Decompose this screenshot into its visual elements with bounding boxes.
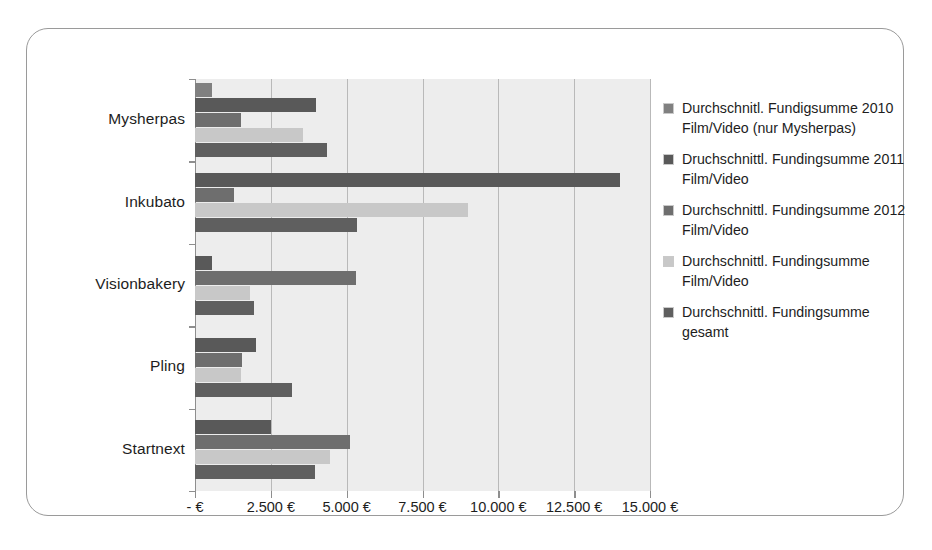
bar [195,113,241,127]
legend-item[interactable]: Durchschnitl. Fundigsumme 2010 Film/Vide… [663,99,915,138]
legend-item[interactable]: Durchschnittl. Fundingsumme 2012 Film/Vi… [663,201,915,240]
x-axis-tick-label: 7.500 € [383,499,463,515]
legend-label: Druchschnittl. Fundingsumme 2011 Film/Vi… [682,151,904,187]
bar [195,368,241,382]
category-label-pling: Pling [55,357,185,375]
chart-legend: Durchschnitl. Fundigsumme 2010 Film/Vide… [663,99,915,354]
y-axis-tick [189,326,196,327]
legend-item[interactable]: Durchschnittl. Fundingsumme Film/Video [663,252,915,291]
x-axis-tick [650,491,651,498]
x-axis-tick-label: 10.000 € [458,499,538,515]
bar-group [195,173,650,232]
x-axis-tick [423,491,424,498]
bar [195,203,468,217]
bar [195,420,271,434]
bar [195,128,303,142]
x-axis-tick [347,491,348,498]
bar [195,450,330,464]
bar [195,256,212,270]
y-axis-tick [189,409,196,410]
bar [195,143,327,157]
bar [195,338,256,352]
category-label-startnext: Startnext [55,440,185,458]
category-label-inkubato: Inkubato [55,193,185,211]
legend-swatch-icon [663,256,674,267]
chart-frame: MysherpasInkubatoVisionbakeryPlingStartn… [26,28,904,516]
bar [195,435,350,449]
legend-swatch-icon [663,103,674,114]
bar-group [195,338,650,397]
legend-label: Durchschnittl. Fundingsumme 2012 Film/Vi… [682,202,905,238]
y-axis-tick [189,491,196,492]
bar-group [195,420,650,479]
bar-group [195,83,650,157]
x-axis-tick-label: - € [155,499,235,515]
gridline [650,79,651,491]
bar [195,353,242,367]
bar [195,218,357,232]
x-axis-tick-label: 5.000 € [307,499,387,515]
legend-swatch-icon [663,307,674,318]
x-axis-tick-label: 15.000 € [610,499,690,515]
bar [195,383,292,397]
bar [195,173,620,187]
bar [195,98,316,112]
bar [195,188,234,202]
bar [195,271,356,285]
y-axis-tick [189,161,196,162]
legend-item[interactable]: Durchschnittl. Fundingsumme gesamt [663,303,915,342]
y-axis-tick [189,79,196,80]
category-label-visionbakery: Visionbakery [55,275,185,293]
bar [195,286,250,300]
bar-group [195,256,650,315]
legend-item[interactable]: Druchschnittl. Fundingsumme 2011 Film/Vi… [663,150,915,189]
bar [195,465,315,479]
x-axis-tick [498,491,499,498]
category-label-mysherpas: Mysherpas [55,110,185,128]
x-axis-tick-label: 2.500 € [231,499,311,515]
legend-label: Durchschnittl. Fundingsumme Film/Video [682,253,870,289]
legend-label: Durchschnitl. Fundigsumme 2010 Film/Vide… [682,100,893,136]
bar [195,301,254,315]
x-axis-tick [574,491,575,498]
x-axis-tick-label: 12.500 € [534,499,614,515]
legend-swatch-icon [663,154,674,165]
legend-label: Durchschnittl. Fundingsumme gesamt [682,304,870,340]
bar [195,83,212,97]
y-axis-tick [189,244,196,245]
x-axis-tick [271,491,272,498]
legend-swatch-icon [663,205,674,216]
